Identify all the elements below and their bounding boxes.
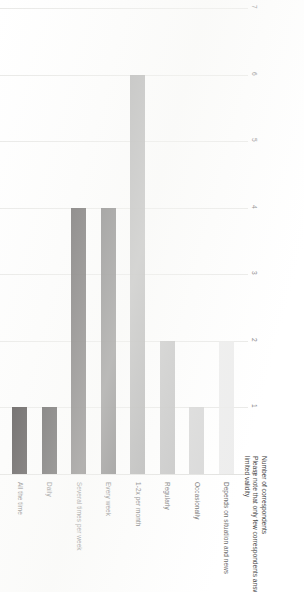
tick-label: 3	[251, 271, 258, 275]
tick-label: 6	[251, 72, 258, 76]
gridline-5	[0, 141, 248, 142]
category-label: Occasionally	[194, 482, 201, 519]
caption-line-3: limited validity	[242, 456, 251, 592]
axis-baseline	[0, 474, 248, 475]
bar	[130, 75, 145, 474]
gridline-1	[0, 407, 248, 408]
bar	[71, 208, 86, 474]
gridline-6	[0, 75, 248, 76]
bar	[42, 407, 57, 474]
tick-label: 5	[251, 138, 258, 142]
tick-label: 2	[251, 338, 258, 342]
category-label: 1-2x per month	[135, 482, 142, 526]
bar-chart: All the timeDailySeveral times per weekE…	[0, 0, 304, 592]
category-label: Every week	[105, 482, 112, 516]
gridline-4	[0, 208, 248, 209]
bar	[160, 341, 175, 474]
bar	[189, 407, 204, 474]
gridline-2	[0, 341, 248, 342]
bar	[219, 341, 234, 474]
gridline-3	[0, 274, 248, 275]
gridline-7	[0, 8, 248, 9]
category-label: Depends on situation and news	[223, 482, 230, 574]
category-label: Daily	[46, 482, 53, 497]
category-label: Several times per week	[76, 482, 83, 551]
category-label: Regularly	[164, 482, 171, 510]
caption-line-1: Number of correspondents	[259, 456, 268, 592]
tick-label: 1	[251, 404, 258, 408]
bar	[101, 208, 116, 474]
chart-caption: Number of correspondents Please note tha…	[242, 456, 268, 592]
tick-label: 4	[251, 205, 258, 209]
bar	[12, 407, 27, 474]
tick-label: 7	[251, 5, 258, 9]
category-label: All the time	[17, 482, 24, 515]
caption-line-2: Please note that only few correspondents…	[251, 456, 260, 592]
